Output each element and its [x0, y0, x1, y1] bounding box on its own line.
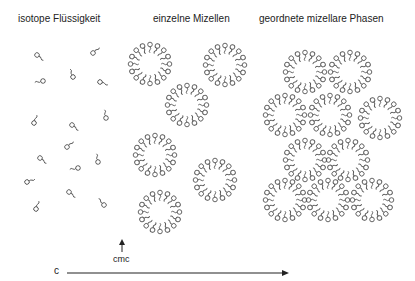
surfactant-molecule-icon	[164, 157, 176, 165]
surfactant-molecule-icon	[303, 138, 308, 149]
surfactant-molecule-icon	[327, 150, 339, 158]
surfactant-molecule-icon	[378, 96, 383, 107]
surfactant-molecule-icon	[308, 113, 319, 118]
surfactant-molecule-icon	[346, 171, 351, 182]
surfactant-molecule-icon	[359, 120, 371, 128]
surfactant-molecule-icon	[389, 108, 401, 116]
surfactant-molecule-icon	[370, 211, 375, 222]
surfactant-molecule-icon	[264, 105, 276, 113]
surfactant-molecule-icon	[138, 210, 149, 215]
surfactant-molecule-icon	[374, 179, 382, 191]
surfactant-molecule-icon	[283, 158, 294, 163]
ordered-micelle-icon	[283, 50, 327, 94]
surfactant-molecule-icon	[362, 209, 370, 221]
surfactant-molecule-icon	[295, 51, 303, 63]
surfactant-molecule-icon	[337, 202, 349, 210]
surfactant-molecule-icon	[68, 68, 76, 80]
surfactant-molecule-icon	[129, 54, 141, 62]
surfactant-molecule-icon	[294, 202, 306, 210]
surfactant-molecule-icon	[287, 209, 295, 221]
surfactant-molecule-icon	[351, 190, 363, 198]
surfactant-molecule-icon	[348, 83, 353, 94]
surfactant-molecule-icon	[326, 178, 331, 189]
single-micelle-icon	[203, 43, 247, 87]
surfactant-molecule-icon	[66, 189, 77, 199]
surfactant-molecule-icon	[332, 124, 340, 136]
surfactant-molecule-icon	[140, 73, 148, 85]
surfactant-molecule-icon	[224, 170, 236, 178]
ordered-micelle-icon	[263, 178, 307, 222]
surfactant-molecule-icon	[348, 50, 353, 61]
surfactant-molecule-icon	[370, 127, 378, 139]
surfactant-molecule-icon	[320, 124, 328, 136]
surfactant-molecule-icon	[391, 116, 402, 121]
surfactant-molecule-icon	[37, 155, 48, 165]
surfactant-molecule-icon	[196, 95, 208, 103]
surfactant-molecule-icon	[296, 198, 307, 203]
surfactant-molecule-icon	[264, 190, 276, 198]
surfactant-molecule-icon	[153, 166, 158, 177]
surfactant-molecule-icon	[145, 134, 153, 146]
surfactant-molecule-icon	[150, 191, 158, 203]
surfactant-molecule-icon	[164, 145, 176, 153]
surfactant-molecule-icon	[318, 179, 326, 191]
surfactant-molecule-icon	[148, 42, 153, 53]
ordered-micelle-icon	[263, 93, 307, 137]
surfactant-molecule-icon	[204, 55, 216, 63]
surfactant-molecule-icon	[330, 179, 338, 191]
surfactant-molecule-icon	[370, 97, 378, 109]
cmc-arrowhead-icon	[119, 239, 125, 245]
surfactant-molecule-icon	[234, 67, 246, 75]
surfactant-molecule-icon	[205, 189, 213, 201]
surfactant-molecule-icon	[165, 103, 176, 108]
surfactant-molecule-icon	[33, 200, 41, 212]
surfactant-molecule-icon	[303, 50, 308, 61]
surfactant-molecule-icon	[194, 182, 206, 190]
surfactant-molecule-icon	[196, 107, 208, 115]
surfactant-molecule-icon	[329, 74, 341, 82]
surfactant-molecule-icon	[64, 140, 75, 150]
surfactant-molecule-icon	[69, 165, 80, 171]
surfactant-molecule-icon	[332, 94, 340, 106]
surfactant-molecule-icon	[140, 43, 148, 55]
surfactant-molecule-icon	[134, 145, 146, 153]
surfactant-molecule-icon	[328, 126, 333, 137]
surfactant-molecule-icon	[189, 114, 197, 126]
surfactant-molecule-icon	[361, 70, 372, 75]
surfactant-molecule-icon	[381, 202, 393, 210]
surfactant-molecule-icon	[340, 51, 348, 63]
surfactant-molecule-icon	[129, 66, 141, 74]
surfactant-molecule-icon	[287, 124, 295, 136]
surfactant-molecule-icon	[213, 158, 218, 169]
surfactant-molecule-icon	[264, 117, 276, 125]
surfactant-molecule-icon	[314, 150, 326, 158]
surfactant-molecule-icon	[227, 74, 235, 86]
axis-arrowhead-icon	[282, 270, 289, 276]
surfactant-molecule-icon	[329, 62, 341, 70]
surfactant-molecule-icon	[223, 76, 228, 87]
surfactant-molecule-icon	[166, 153, 177, 158]
surfactant-molecule-icon	[357, 150, 369, 158]
surfactant-molecule-icon	[150, 221, 158, 233]
surfactant-molecule-icon	[316, 158, 327, 163]
surfactant-molecule-icon	[296, 113, 307, 118]
surfactant-molecule-icon	[326, 211, 331, 222]
surfactant-molecule-icon	[287, 94, 295, 106]
surfactant-molecule-icon	[90, 46, 101, 56]
surfactant-molecule-icon	[223, 43, 228, 54]
surfactant-molecule-icon	[224, 182, 236, 190]
surfactant-molecule-icon	[31, 114, 39, 126]
surfactant-molecule-icon	[94, 153, 100, 164]
surfactant-molecule-icon	[159, 66, 171, 74]
surfactant-molecule-icon	[357, 162, 369, 170]
surfactant-molecule-icon	[217, 159, 225, 171]
surfactant-molecule-icon	[166, 95, 178, 103]
surfactant-molecule-icon	[169, 202, 181, 210]
surfactant-molecule-icon	[189, 84, 197, 96]
surfactant-molecule-icon	[328, 70, 339, 75]
surfactant-molecule-icon	[97, 79, 109, 87]
surfactant-molecule-icon	[185, 83, 190, 94]
surfactant-molecule-icon	[295, 81, 303, 93]
surfactant-molecule-icon	[328, 93, 333, 104]
surfactant-molecule-icon	[346, 138, 351, 149]
